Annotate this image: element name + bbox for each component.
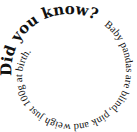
spiral-heading: Did you know? [0, 0, 101, 76]
spiral-body: Baby pandas are blind, pink and weigh ju… [13, 18, 135, 132]
spiral-text: Did you know? Baby pandas are blind, pin… [0, 0, 135, 132]
spiral-svg: Did you know? Baby pandas are blind, pin… [0, 0, 137, 132]
spiral-text-graphic: Did you know? Baby pandas are blind, pin… [0, 0, 137, 132]
